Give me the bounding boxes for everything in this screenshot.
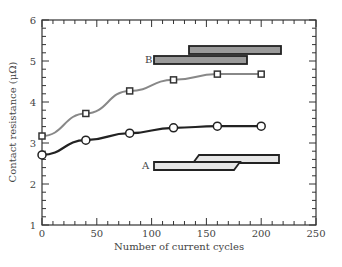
x-tick-label: 50 — [90, 228, 103, 239]
y-tick-label: 3 — [30, 138, 36, 149]
series-group — [38, 71, 265, 159]
circle-marker — [170, 124, 178, 132]
y-tick-label: 5 — [30, 56, 36, 67]
annotation-a: A — [141, 155, 279, 171]
circle-marker — [38, 151, 46, 159]
square-marker — [83, 110, 89, 116]
circle-marker — [213, 122, 221, 130]
y-tick-label: 1 — [30, 220, 36, 231]
y-tick-label: 6 — [30, 15, 36, 26]
y-tick-label: 2 — [30, 179, 36, 190]
x-tick-label: 150 — [197, 228, 216, 239]
x-tick-label: 0 — [39, 228, 45, 239]
x-tick-label: 100 — [142, 228, 161, 239]
circle-marker — [82, 136, 90, 144]
series-line-a — [42, 126, 261, 155]
label-b: B — [145, 54, 152, 65]
x-tick-labels: 050100150200250 — [39, 228, 326, 239]
chart: 123456 050100150200250 Number of current… — [0, 0, 342, 267]
circle-marker — [126, 129, 134, 137]
circle-marker — [257, 122, 265, 130]
square-marker — [39, 133, 45, 139]
square-marker — [258, 71, 264, 77]
y-tick-label: 4 — [30, 97, 36, 108]
annotation-b: B — [145, 46, 281, 65]
square-marker — [214, 71, 220, 77]
x-axis-label: Number of current cycles — [114, 241, 244, 252]
x-tick-label: 200 — [252, 228, 271, 239]
label-a: A — [141, 160, 150, 171]
square-marker — [171, 77, 177, 83]
y-axis-label: Contact resistance (μΩ) — [7, 62, 18, 183]
y-tick-labels: 123456 — [30, 15, 36, 231]
square-marker — [127, 88, 133, 94]
x-tick-label: 250 — [306, 228, 325, 239]
